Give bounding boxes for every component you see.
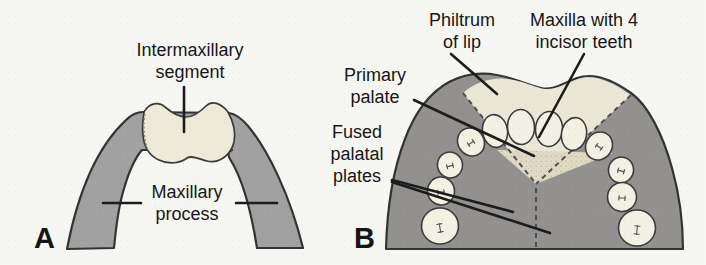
figure-palate-development: Intermaxillary segment Maxillary process… <box>0 0 706 265</box>
label-fused-palatal-plates: Fused palatal plates <box>330 121 383 187</box>
label-primary-palate: Primary palate <box>344 64 406 108</box>
panel-letter-a: A <box>34 222 55 254</box>
panel-letter-b: B <box>354 222 375 254</box>
label-intermaxillary-segment: Intermaxillary segment <box>136 39 243 83</box>
label-maxillary-process: Maxillary process <box>151 181 222 225</box>
label-maxilla-incisors: Maxilla with 4 incisor teeth <box>530 9 638 53</box>
label-philtrum-of-lip: Philtrum of lip <box>429 9 495 53</box>
